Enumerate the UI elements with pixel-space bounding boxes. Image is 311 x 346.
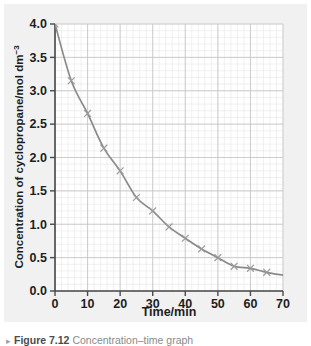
y-tick-label: 4.0 <box>30 17 47 31</box>
y-tick-label: 3.0 <box>30 84 47 98</box>
x-tick-label: 50 <box>211 297 225 311</box>
x-tick-label: 70 <box>276 297 290 311</box>
concentration-time-chart: 010203040506070 0.00.51.01.52.02.53.03.5… <box>4 4 307 322</box>
caption-text: Concentration–time graph <box>72 334 193 346</box>
y-axis-tick-labels: 0.00.51.01.52.02.53.03.54.0 <box>30 17 47 298</box>
y-tick-label: 1.0 <box>30 218 47 232</box>
y-tick-label: 2.0 <box>30 151 47 165</box>
y-axis-title: Concentration of cyclopropane/mol dm−3 <box>12 45 25 269</box>
y-tick-label: 0.5 <box>30 251 47 265</box>
x-tick-label: 10 <box>81 297 95 311</box>
x-tick-label: 0 <box>52 297 59 311</box>
figure-caption: ▸Figure 7.12 Concentration–time graph <box>6 334 305 346</box>
y-tick-label: 2.5 <box>30 117 47 131</box>
y-tick-label: 1.5 <box>30 184 47 198</box>
x-tick-label: 20 <box>113 297 127 311</box>
y-tick-label: 3.5 <box>30 51 47 65</box>
figure-root: 010203040506070 0.00.51.01.52.02.53.03.5… <box>0 0 311 346</box>
figure-panel: 010203040506070 0.00.51.01.52.02.53.03.5… <box>4 4 307 322</box>
y-tick-label: 0.0 <box>30 284 47 298</box>
caption-marker-icon: ▸ <box>6 336 11 346</box>
x-tick-label: 60 <box>243 297 257 311</box>
x-axis-title: Time/min <box>142 305 197 319</box>
caption-label: Figure 7.12 <box>14 334 69 346</box>
